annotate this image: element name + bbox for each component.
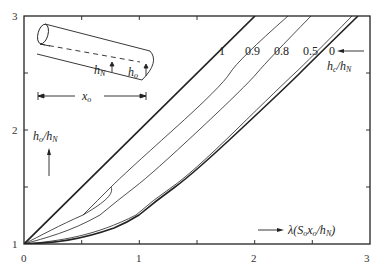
curve-label-0.9: 0.9 bbox=[245, 44, 260, 58]
channel-inlet-ellipse bbox=[36, 23, 51, 45]
x-axis-label: λ(Soxo/hN) bbox=[287, 223, 335, 238]
x-axis-arrow bbox=[258, 228, 284, 232]
curve-label-0.5: 0.5 bbox=[303, 44, 318, 58]
curve-label-0.8: 0.8 bbox=[274, 44, 289, 58]
inset-label-ho: ho bbox=[128, 65, 138, 80]
channel-outlet-arc bbox=[142, 51, 154, 80]
chart: 0 1 2 3 1 2 3 hN ho xo 1 0.9 bbox=[0, 0, 375, 269]
y-axis-label: ho/hN bbox=[33, 129, 58, 144]
inset-label-hN: hN bbox=[94, 63, 106, 78]
x-tick-1: 1 bbox=[136, 252, 142, 264]
y-tick-1: 1 bbox=[12, 238, 18, 250]
x-tick-0: 0 bbox=[21, 252, 27, 264]
x-tick-2: 2 bbox=[251, 252, 257, 264]
up-arrow-icon bbox=[47, 148, 51, 155]
curve-label-1: 1 bbox=[219, 44, 225, 58]
curve-label-0: 0 bbox=[329, 44, 335, 58]
legend-arrow-head-icon bbox=[337, 49, 344, 53]
hN-arrow-head bbox=[110, 62, 114, 66]
inset-label-xo: xo bbox=[81, 89, 91, 104]
legend-title: hc/hN bbox=[327, 59, 352, 74]
curve-hc-0.8 bbox=[24, 16, 311, 244]
y-tick-2: 2 bbox=[12, 124, 18, 136]
y-axis-arrow bbox=[47, 148, 51, 176]
ho-arrow-head bbox=[144, 64, 148, 68]
x-tick-3: 3 bbox=[364, 252, 370, 264]
y-tick-3: 3 bbox=[12, 10, 18, 22]
right-arrow-icon bbox=[277, 228, 284, 232]
inset-channel-diagram bbox=[36, 23, 154, 100]
water-surface-line bbox=[40, 44, 140, 62]
legend-arrow bbox=[337, 49, 364, 53]
